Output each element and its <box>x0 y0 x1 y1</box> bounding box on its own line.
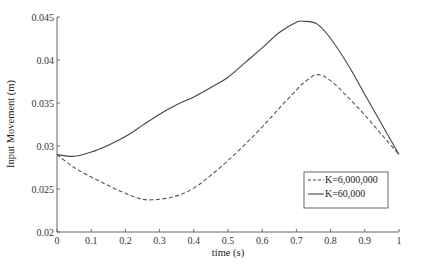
x-tick-label: 0.7 <box>290 235 303 246</box>
line-chart: 00.10.20.30.40.50.60.70.80.910.020.0250.… <box>0 0 423 265</box>
legend-label: K=60,000 <box>325 188 365 199</box>
y-tick-label: 0.035 <box>32 98 55 109</box>
x-tick-label: 0.3 <box>153 235 166 246</box>
x-tick-label: 0.9 <box>359 235 372 246</box>
x-tick-label: 0.6 <box>256 235 269 246</box>
x-tick-label: 0.5 <box>222 235 235 246</box>
x-tick-label: 0 <box>55 235 60 246</box>
x-tick-label: 0.2 <box>119 235 132 246</box>
y-tick-label: 0.03 <box>37 141 55 152</box>
y-axis-label: Input Movement (m) <box>5 79 17 168</box>
y-tick-label: 0.04 <box>37 55 55 66</box>
x-tick-label: 0.8 <box>324 235 337 246</box>
x-tick-label: 0.4 <box>188 235 201 246</box>
x-tick-label: 1 <box>397 235 402 246</box>
y-tick-label: 0.02 <box>37 227 55 238</box>
x-axis-label: time (s) <box>212 247 245 259</box>
y-tick-label: 0.045 <box>32 12 55 23</box>
y-tick-label: 0.025 <box>32 184 55 195</box>
series-k-60-000 <box>57 21 399 156</box>
x-tick-label: 0.1 <box>85 235 98 246</box>
legend-label: K=6,000,000 <box>325 174 378 185</box>
legend: K=6,000,000K=60,000 <box>304 172 388 208</box>
axes: 00.10.20.30.40.50.60.70.80.910.020.0250.… <box>32 12 402 247</box>
